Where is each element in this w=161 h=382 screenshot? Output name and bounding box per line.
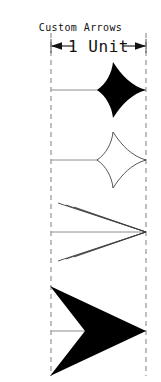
drawing-title: Custom Arrows (39, 22, 122, 33)
custom-arrows-drawing: Custom Arrows 1 Unit (0, 0, 161, 382)
solid-barbed-arrow (50, 286, 146, 376)
hollow-swallowtail-arrow (51, 132, 146, 188)
swallowtail-head-icon (97, 62, 146, 118)
drawing-canvas: Custom Arrows 1 Unit (0, 0, 161, 382)
solid-swallowtail-arrow (51, 62, 146, 118)
dimension-left-arrowhead-icon (51, 42, 62, 50)
triple-barb-chevron-arrow (51, 203, 146, 261)
dimension-right-arrowhead-icon (135, 42, 146, 50)
swallowtail-head-icon (97, 132, 146, 188)
dimension-group: 1 Unit (51, 37, 146, 56)
dimension-label: 1 Unit (68, 37, 129, 56)
